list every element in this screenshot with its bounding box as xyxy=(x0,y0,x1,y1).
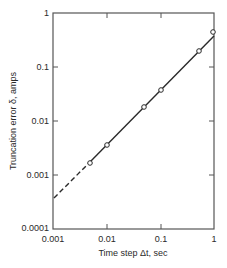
extrapolation-line xyxy=(54,164,88,198)
y-tick-label: 0.0001 xyxy=(21,223,49,233)
y-tick-label: 0.01 xyxy=(31,116,49,126)
x-tick-label: 0.1 xyxy=(155,234,168,244)
x-tick-labels: 0.001 0.01 0.1 1 xyxy=(42,234,217,244)
y-tick-label: 0.001 xyxy=(26,170,49,180)
data-point xyxy=(197,49,202,54)
y-ticks xyxy=(53,67,214,175)
data-point xyxy=(211,30,216,35)
y-tick-label: 1 xyxy=(44,8,49,18)
log-log-chart: 1 0.1 0.01 0.001 0.0001 0.001 0.01 0.1 1… xyxy=(0,0,227,268)
data-points xyxy=(88,30,216,166)
x-tick-label: 0.01 xyxy=(98,234,116,244)
x-tick-label: 1 xyxy=(211,234,216,244)
y-axis-title: Truncation error δ, amps xyxy=(8,71,18,170)
y-tick-label: 0.1 xyxy=(36,62,49,72)
x-ticks xyxy=(107,13,161,229)
data-point xyxy=(105,143,110,148)
x-tick-label: 0.001 xyxy=(42,234,65,244)
y-tick-labels: 1 0.1 0.01 0.001 0.0001 xyxy=(21,8,49,233)
data-point xyxy=(142,105,147,110)
data-point xyxy=(88,161,93,166)
x-axis-title: Time step Δt, sec xyxy=(98,248,168,258)
data-point xyxy=(159,88,164,93)
plot-frame xyxy=(53,13,214,229)
